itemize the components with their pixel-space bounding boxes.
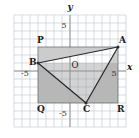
y-axis-label: y	[68, 3, 73, 12]
origin-label: O	[72, 61, 79, 70]
geometry-figure: y x 5 -5 -5 5 O P A B C Q R	[0, 0, 139, 138]
point-label-b: B	[29, 58, 37, 67]
point-label-p: P	[37, 36, 44, 45]
y-tick-label-minus5: -5	[59, 110, 67, 118]
x-tick-label-minus5: -5	[21, 70, 29, 78]
point-label-a: A	[119, 36, 126, 45]
point-label-q: Q	[37, 105, 45, 114]
x-tick-label-5: 5	[112, 70, 117, 78]
y-tick-label-5: 5	[62, 22, 67, 30]
point-label-r: R	[117, 105, 124, 114]
x-axis-label: x	[127, 63, 132, 72]
point-label-c: C	[83, 105, 90, 114]
